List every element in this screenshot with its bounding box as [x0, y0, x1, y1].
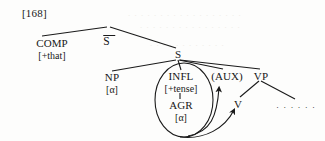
example-number: [168] [22, 8, 47, 19]
node-vp: VP [254, 71, 268, 82]
movement-arrow-to-aux [188, 88, 219, 136]
node-infl-feature: [+tense] [165, 84, 198, 94]
node-infl: INFL [169, 71, 194, 82]
node-comp-feature: [+that] [38, 51, 65, 61]
edge-s-infl [178, 60, 181, 70]
movement-arrow-to-v [180, 110, 234, 137]
node-comp: COMP [36, 38, 68, 49]
node-v: V [234, 99, 242, 110]
node-agr: AGR [169, 100, 193, 111]
edge-sbar-s [110, 27, 176, 48]
node-sbar: S [103, 12, 115, 71]
node-s: S [175, 49, 181, 60]
node-np: NP [105, 72, 119, 83]
edge-vp-ellipsis [261, 81, 295, 99]
node-np-feature: [α] [106, 85, 118, 95]
node-sbar-label: S [103, 35, 115, 48]
node-agr-feature: [α] [175, 113, 187, 123]
edge-sbar-comp [42, 27, 107, 36]
tree-lines-layer [0, 0, 325, 141]
node-aux: (AUX) [211, 71, 243, 82]
syntax-tree-figure: . . . . . . . . . . . . . . . . . . . . … [0, 0, 325, 141]
edge-s-np [112, 60, 176, 71]
edge-vp-v [240, 81, 259, 97]
node-ellipsis: · · · · · · [276, 103, 316, 112]
